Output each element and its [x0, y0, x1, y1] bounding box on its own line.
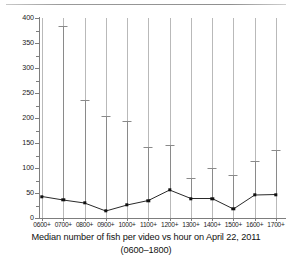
x-tick-label-0900+: 0900+	[97, 221, 114, 228]
x-tick-label-1300+: 1300+	[182, 221, 199, 228]
data-point-1500+	[232, 207, 235, 210]
x-tick-label-0800+: 0800+	[76, 221, 93, 228]
series-line	[39, 18, 285, 218]
x-tick-label-1400+: 1400+	[204, 221, 221, 228]
caption-line-1: Median number of fish per video vs hour …	[0, 231, 292, 244]
x-tick-label-1100+: 1100+	[140, 221, 157, 228]
y-tick-label-300: 300	[22, 64, 34, 71]
data-point-1400+	[210, 197, 213, 200]
data-point-1300+	[189, 197, 192, 200]
y-tick-label-100: 100	[22, 164, 34, 171]
chart-caption: Median number of fish per video vs hour …	[0, 231, 292, 257]
x-tick-label-0600+: 0600+	[33, 221, 50, 228]
x-axis-line	[39, 218, 286, 219]
data-point-0800+	[83, 201, 86, 204]
data-point-0600+	[40, 195, 43, 198]
data-point-1200+	[168, 188, 171, 191]
x-tick-label-1500+: 1500+	[225, 221, 242, 228]
x-tick-label-0700+: 0700+	[55, 221, 72, 228]
x-tick-label-1000+: 1000+	[118, 221, 135, 228]
caption-line-2: (0600–1800)	[0, 244, 292, 257]
x-tick-label-1200+: 1200+	[161, 221, 178, 228]
data-point-1600+	[253, 193, 256, 196]
data-point-1000+	[125, 203, 128, 206]
data-point-1700+	[274, 193, 277, 196]
data-point-0700+	[62, 198, 65, 201]
plot-area: 050100150200250300350400	[39, 18, 285, 218]
y-tick-label-350: 350	[22, 39, 34, 46]
y-tick-label-400: 400	[22, 14, 34, 21]
figure-chart: 050100150200250300350400 0600+0700+0800+…	[0, 0, 292, 270]
y-tick-label-250: 250	[22, 89, 34, 96]
y-tick-label-50: 50	[26, 189, 34, 196]
x-tick-label-1700+: 1700+	[267, 221, 284, 228]
y-tick-label-150: 150	[22, 139, 34, 146]
data-point-0900+	[104, 209, 107, 212]
data-point-1100+	[147, 199, 150, 202]
y-tick-0	[35, 218, 39, 219]
x-tick-label-1600+: 1600+	[246, 221, 263, 228]
top-divider-rule	[6, 4, 286, 5]
y-tick-label-200: 200	[22, 114, 34, 121]
